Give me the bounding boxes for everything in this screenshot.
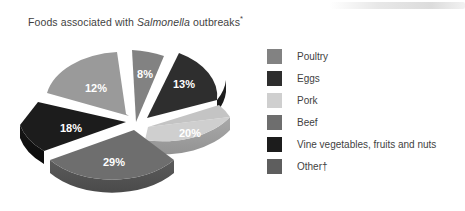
- legend-swatch-pork: [267, 93, 282, 108]
- legend-swatch-vine-vegetables: [267, 137, 282, 152]
- legend-label-vine-vegetables: Vine vegetables, fruits and nuts: [297, 139, 436, 150]
- chart-title-prefix: Foods associated with: [28, 16, 137, 28]
- legend-item-poultry[interactable]: Poultry: [267, 45, 457, 67]
- chart-title-suffix: outbreaks: [190, 16, 240, 28]
- slice-label-pork: 20%: [179, 127, 201, 139]
- legend-item-vine-vegetables[interactable]: Vine vegetables, fruits and nuts: [267, 133, 457, 155]
- legend-item-eggs[interactable]: Eggs: [267, 67, 457, 89]
- legend-swatch-beef: [267, 115, 282, 130]
- legend-item-other[interactable]: Other†: [267, 155, 457, 177]
- slice-label-beef: 29%: [103, 156, 125, 168]
- legend-label-other: Other†: [297, 161, 328, 172]
- legend-item-beef[interactable]: Beef: [267, 111, 457, 133]
- chart-title: Foods associated with Salmonella outbrea…: [28, 14, 243, 28]
- slice-label-eggs: 13%: [173, 78, 195, 90]
- slice-label-other: 12%: [85, 82, 107, 94]
- legend-label-pork: Pork: [297, 95, 318, 106]
- slice-label-vine: 18%: [60, 122, 82, 134]
- legend-label-eggs: Eggs: [297, 73, 320, 84]
- scan-artifact-band: [330, 2, 465, 9]
- legend-label-beef: Beef: [297, 117, 318, 128]
- slice-other: 12%: [47, 52, 129, 116]
- pie-chart-svg: 8% 13% 20% 29% 18% 12%: [14, 30, 259, 208]
- legend-swatch-other: [267, 159, 282, 174]
- legend-label-poultry: Poultry: [297, 51, 328, 62]
- legend-item-pork[interactable]: Pork: [267, 89, 457, 111]
- chart-legend: Poultry Eggs Pork Beef Vine vegetables, …: [267, 45, 457, 177]
- legend-swatch-poultry: [267, 49, 282, 64]
- chart-title-footnote-mark: *: [240, 14, 243, 23]
- chart-title-italic-term: Salmonella: [137, 16, 190, 28]
- slice-label-poultry: 8%: [137, 68, 153, 80]
- legend-swatch-eggs: [267, 71, 282, 86]
- pie-chart: 8% 13% 20% 29% 18% 12%: [14, 30, 259, 208]
